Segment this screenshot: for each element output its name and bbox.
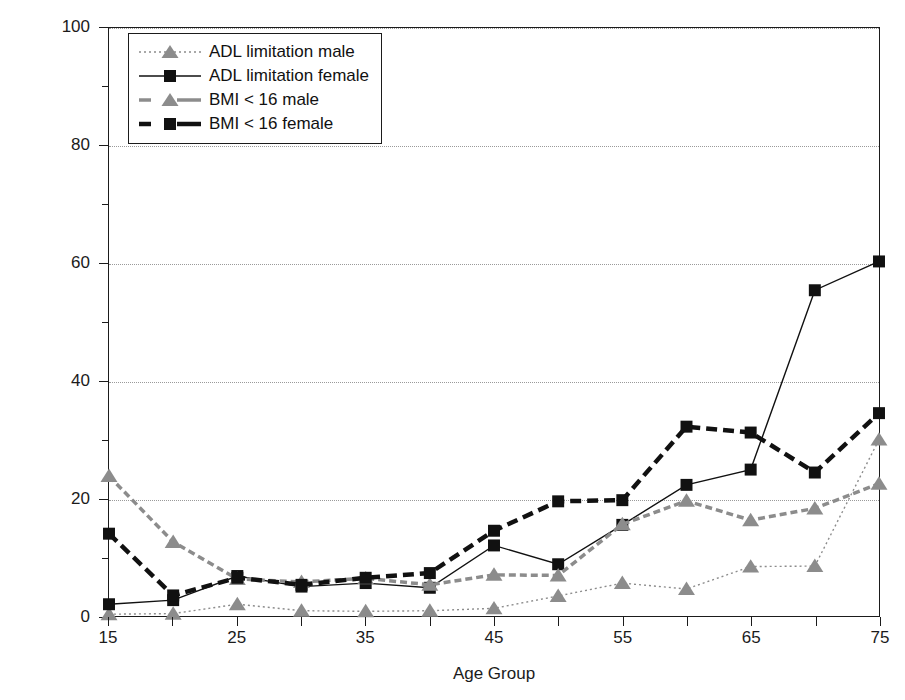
chart-container: Percentage 020406080100 15253545556575 A… <box>0 0 905 700</box>
legend-label: ADL limitation male <box>203 42 355 62</box>
data-point <box>745 427 757 439</box>
x-tick-mark <box>751 617 752 626</box>
x-tick-mark <box>816 617 817 626</box>
data-point <box>871 432 888 445</box>
y-tick-mark <box>99 499 108 500</box>
x-tick-mark <box>365 617 366 626</box>
data-point <box>360 572 372 584</box>
x-tick-mark <box>430 617 431 626</box>
data-point <box>873 407 885 419</box>
x-tick-mark <box>687 617 688 626</box>
data-point <box>681 421 693 433</box>
legend-swatch <box>137 114 203 134</box>
x-tick-label: 55 <box>593 629 653 647</box>
x-tick-label: 45 <box>464 629 524 647</box>
x-tick-mark <box>301 617 302 626</box>
y-tick-label: 60 <box>44 254 90 271</box>
y-tick-label: 20 <box>44 490 90 507</box>
legend-label: BMI < 16 female <box>203 114 333 134</box>
data-point <box>614 576 631 589</box>
x-tick-mark <box>623 617 624 626</box>
y-tick-label: 100 <box>44 18 90 35</box>
data-point <box>293 603 310 616</box>
data-point <box>742 513 759 526</box>
legend-item-3: BMI < 16 female <box>137 112 369 136</box>
data-point <box>103 598 115 610</box>
legend-label: BMI < 16 male <box>203 90 319 110</box>
legend-swatch <box>137 90 203 110</box>
data-point <box>871 476 888 489</box>
data-point <box>616 494 628 506</box>
x-tick-mark <box>108 617 109 626</box>
data-point <box>873 255 885 267</box>
data-point <box>681 479 693 491</box>
data-point <box>167 589 179 601</box>
x-axis-title: Age Group <box>108 664 880 684</box>
y-tick-label: 80 <box>44 136 90 153</box>
x-tick-label: 25 <box>207 629 267 647</box>
data-point <box>229 597 246 610</box>
x-tick-mark <box>494 617 495 626</box>
data-point <box>357 604 374 617</box>
data-point <box>809 467 821 479</box>
data-point <box>678 493 695 506</box>
y-tick-label: 0 <box>44 608 90 625</box>
data-point <box>806 559 823 572</box>
x-tick-label: 35 <box>335 629 395 647</box>
x-tick-label: 75 <box>850 629 905 647</box>
data-point <box>550 589 567 602</box>
data-point <box>101 469 118 482</box>
x-tick-mark <box>558 617 559 626</box>
series-1 <box>103 255 885 610</box>
data-point <box>745 464 757 476</box>
data-point <box>424 567 436 579</box>
y-tick-mark <box>99 27 108 28</box>
data-point <box>806 501 823 514</box>
data-point <box>421 603 438 616</box>
data-point <box>488 525 500 537</box>
series-line <box>109 261 879 604</box>
data-point <box>165 534 182 547</box>
data-point <box>488 539 500 551</box>
x-tick-mark <box>172 617 173 626</box>
data-point <box>296 579 308 591</box>
x-tick-mark <box>237 617 238 626</box>
legend-item-0: ADL limitation male <box>137 40 369 64</box>
x-tick-label: 65 <box>721 629 781 647</box>
legend-label: ADL limitation female <box>203 66 369 86</box>
y-tick-label: 40 <box>44 372 90 389</box>
legend-item-1: ADL limitation female <box>137 64 369 88</box>
data-point <box>486 601 503 614</box>
legend: ADL limitation maleADL limitation female… <box>128 33 382 144</box>
data-point <box>103 528 115 540</box>
legend-item-2: BMI < 16 male <box>137 88 369 112</box>
x-tick-mark <box>880 617 881 626</box>
y-tick-mark <box>99 381 108 382</box>
data-point <box>231 572 243 584</box>
legend-swatch <box>137 42 203 62</box>
legend-swatch <box>137 66 203 86</box>
y-tick-mark <box>99 263 108 264</box>
data-point <box>809 284 821 296</box>
y-tick-mark <box>99 145 108 146</box>
data-point <box>552 495 564 507</box>
x-tick-label: 15 <box>78 629 138 647</box>
